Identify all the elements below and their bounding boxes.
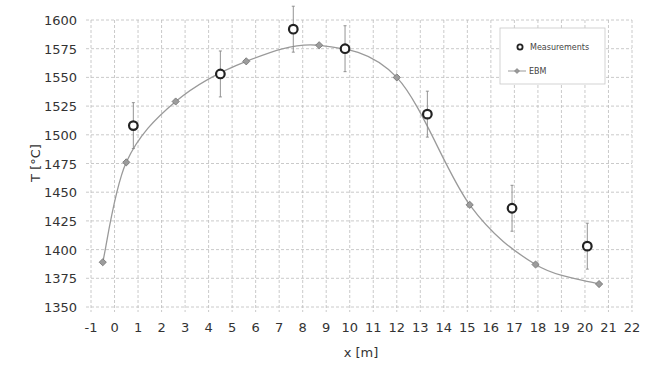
measurement-circle-marker-icon xyxy=(289,25,298,34)
ebm-diamond-marker-icon xyxy=(99,259,106,266)
y-tick-label: 1350 xyxy=(44,300,77,315)
y-tick-label: 1525 xyxy=(44,99,77,114)
measurement-circle-marker-icon xyxy=(423,110,432,119)
x-tick-label: 17 xyxy=(506,320,523,335)
x-axis-title: x [m] xyxy=(344,345,379,360)
x-tick-label: 11 xyxy=(365,320,382,335)
legend-measurements-marker-icon xyxy=(517,44,522,49)
y-tick-label: 1575 xyxy=(44,42,77,57)
measurement-circle-marker-icon xyxy=(129,121,138,130)
y-tick-label: 1475 xyxy=(44,157,77,172)
legend: Measurements EBM xyxy=(500,28,605,84)
x-tick-label: 22 xyxy=(624,320,641,335)
y-axis-ticks: 1350137514001425145014751500152515501575… xyxy=(44,13,77,315)
x-tick-label: 3 xyxy=(181,320,189,335)
y-tick-label: 1400 xyxy=(44,243,77,258)
measurement-circle-marker-icon xyxy=(583,242,592,251)
x-tick-label: 1 xyxy=(134,320,142,335)
ebm-diamond-marker-icon xyxy=(316,42,323,49)
x-tick-label: 14 xyxy=(436,320,453,335)
x-tick-label: 16 xyxy=(483,320,500,335)
x-tick-label: 10 xyxy=(341,320,358,335)
y-tick-label: 1600 xyxy=(44,13,77,28)
y-tick-label: 1375 xyxy=(44,271,77,286)
measurement-circle-marker-icon xyxy=(508,204,517,213)
x-tick-label: 20 xyxy=(577,320,594,335)
x-tick-label: -1 xyxy=(85,320,98,335)
ebm-diamond-marker-icon xyxy=(243,58,250,65)
x-tick-label: 5 xyxy=(228,320,236,335)
x-tick-label: 12 xyxy=(389,320,406,335)
x-tick-label: 18 xyxy=(530,320,547,335)
legend-measurements-label: Measurements xyxy=(530,43,589,52)
x-tick-label: 6 xyxy=(252,320,260,335)
x-tick-label: 8 xyxy=(299,320,307,335)
y-tick-label: 1550 xyxy=(44,70,77,85)
measurement-circle-marker-icon xyxy=(341,44,350,53)
y-tick-label: 1450 xyxy=(44,185,77,200)
x-tick-label: 15 xyxy=(459,320,476,335)
x-tick-label: 7 xyxy=(275,320,283,335)
x-tick-label: 4 xyxy=(204,320,212,335)
y-tick-label: 1500 xyxy=(44,128,77,143)
x-tick-label: 13 xyxy=(412,320,429,335)
x-tick-label: 9 xyxy=(322,320,330,335)
y-axis-title: T [°C] xyxy=(28,144,43,183)
ebm-diamond-marker-icon xyxy=(595,280,602,287)
x-axis-ticks: -1012345678910111213141516171819202122 xyxy=(85,320,641,335)
y-tick-label: 1425 xyxy=(44,214,77,229)
x-tick-label: 19 xyxy=(553,320,570,335)
ebm-diamond-marker-icon xyxy=(123,159,130,166)
measurement-circle-marker-icon xyxy=(216,70,225,79)
chart: 1350137514001425145014751500152515501575… xyxy=(0,0,659,377)
x-tick-label: 0 xyxy=(110,320,118,335)
legend-ebm-label: EBM xyxy=(529,67,547,76)
x-tick-label: 21 xyxy=(600,320,617,335)
x-tick-label: 2 xyxy=(157,320,165,335)
